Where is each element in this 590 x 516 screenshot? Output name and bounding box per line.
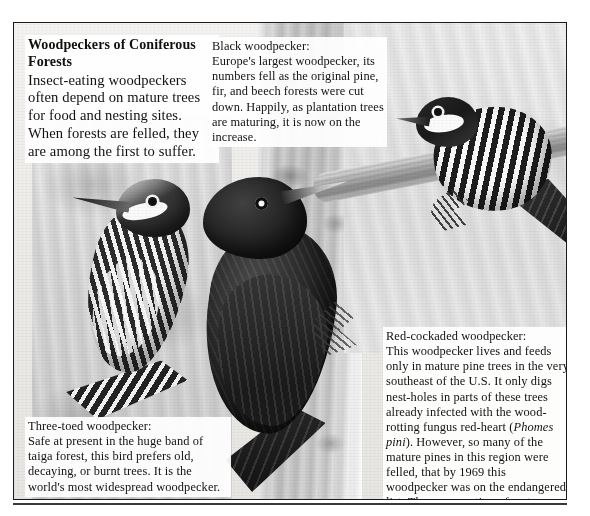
- caption-red-cockaded-woodpecker: Red-cockaded woodpecker: This woodpecker…: [383, 327, 567, 500]
- bird-bill: [280, 175, 349, 205]
- illustration-page: Woodpeckers of Coniferous Forests Insect…: [0, 0, 590, 516]
- caption-three-toed-lead: Three-toed woodpecker:: [28, 419, 228, 434]
- caption-red-cockaded-body: This woodpecker lives and feeds only in …: [386, 344, 567, 500]
- bird-eye: [148, 197, 157, 206]
- bird-head: [203, 177, 307, 259]
- bird-eye: [434, 108, 442, 116]
- page-title: Woodpeckers of Coniferous Forests: [28, 37, 216, 71]
- bird-eye: [255, 197, 268, 210]
- illustration-frame: Woodpeckers of Coniferous Forests Insect…: [13, 22, 567, 500]
- caption-black-woodpecker-body: Europe's largest woodpecker, its numbers…: [212, 54, 384, 145]
- bottom-rule: [13, 503, 567, 505]
- caption-three-toed-woodpecker: Three-toed woodpecker: Safe at present i…: [25, 417, 231, 497]
- caption-intro-body: Insect-eating woodpeckers often depend o…: [28, 72, 216, 161]
- caption-three-toed-body: Safe at present in the huge band of taig…: [28, 434, 228, 495]
- caption-red-cockaded-body-part2: ). However, so many of the mature pines …: [386, 435, 566, 500]
- red-cockaded-woodpecker-illustration: [412, 85, 567, 275]
- caption-black-woodpecker: Black woodpecker: Europe's largest woodp…: [209, 37, 387, 147]
- caption-intro: Woodpeckers of Coniferous Forests Insect…: [25, 35, 219, 163]
- caption-black-woodpecker-lead: Black woodpecker:: [212, 39, 384, 54]
- caption-red-cockaded-lead: Red-cockaded woodpecker:: [386, 329, 567, 344]
